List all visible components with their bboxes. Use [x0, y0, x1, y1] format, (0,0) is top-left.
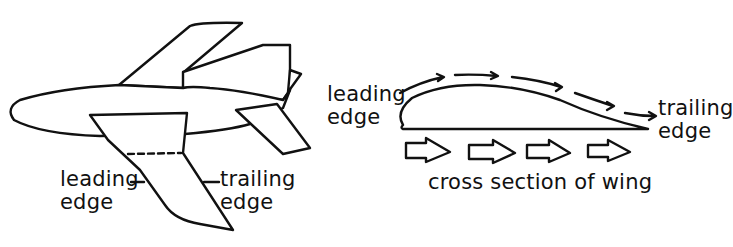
- cross-section-caption: cross section of wing: [428, 171, 652, 194]
- label-line: leading: [327, 83, 406, 106]
- label-line: edge: [60, 191, 139, 214]
- label-line: trailing: [658, 97, 733, 120]
- airflow-block-arrow-2: [469, 140, 515, 163]
- horizontal-stabilizer: [236, 104, 310, 154]
- airflow-arrow-5: [625, 112, 656, 120]
- label-line: trailing: [220, 168, 295, 191]
- tail-tip: [288, 70, 301, 92]
- label-line: leading: [60, 168, 139, 191]
- label-line: edge: [220, 191, 295, 214]
- airflow-block-arrow-1: [406, 138, 450, 162]
- airflow-arrow-2: [455, 72, 498, 79]
- label-line: edge: [327, 106, 406, 129]
- airfoil-drawing: [400, 72, 656, 163]
- label-line: edge: [658, 120, 733, 143]
- airplane-leading-edge-label: leading edge: [60, 168, 139, 214]
- airplane-trailing-edge-label: trailing edge: [220, 168, 295, 214]
- airfoil-trailing-edge-label: trailing edge: [658, 97, 733, 143]
- airfoil-leading-edge-label: leading edge: [327, 83, 406, 129]
- airflow-block-arrow-3: [527, 140, 570, 162]
- airflow-block-arrow-4: [588, 140, 630, 161]
